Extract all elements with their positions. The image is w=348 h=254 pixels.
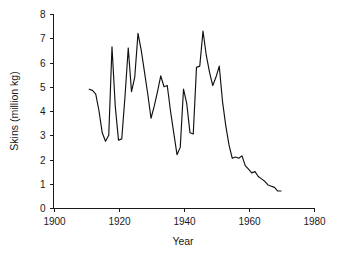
x-tick-label-1960: 1960: [238, 216, 261, 227]
y-tick-labels: 012345678: [40, 9, 46, 214]
y-tick-label-8: 8: [40, 9, 46, 20]
y-tick-label-2: 2: [40, 155, 46, 166]
y-tick-label-7: 7: [40, 33, 46, 44]
chart-figure: 012345678 19001920194019601980 Year Skin…: [0, 0, 348, 254]
y-axis-title: Skins (million kg): [8, 71, 20, 150]
y-tick-label-6: 6: [40, 58, 46, 69]
y-tick-label-1: 1: [40, 179, 46, 190]
line-chart: 012345678 19001920194019601980 Year Skin…: [0, 0, 348, 254]
x-tick-label-1980: 1980: [303, 216, 326, 227]
x-tick-label-1920: 1920: [108, 216, 131, 227]
data-series-line: [89, 31, 281, 191]
x-tick-label-1940: 1940: [173, 216, 196, 227]
y-tick-label-3: 3: [40, 130, 46, 141]
x-tick-labels: 19001920194019601980: [43, 216, 326, 227]
y-tick-label-0: 0: [40, 203, 46, 214]
x-axis-title: Year: [172, 235, 194, 247]
y-tick-label-5: 5: [40, 82, 46, 93]
x-tick-label-1900: 1900: [43, 216, 66, 227]
y-tick-marks: [50, 15, 54, 209]
y-tick-label-4: 4: [40, 106, 46, 117]
